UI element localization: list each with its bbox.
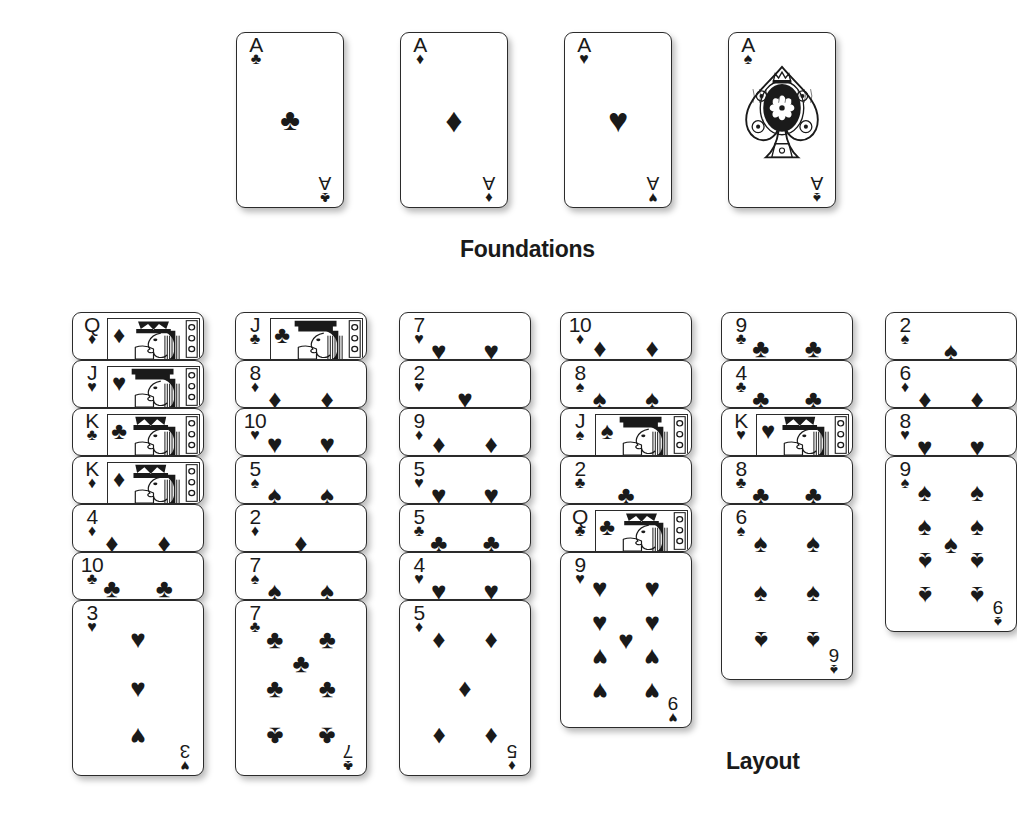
pip: ♣ — [156, 575, 173, 600]
tableau-card-c6-2[interactable]: 6♦♦♦ — [885, 360, 1017, 408]
pip-field: ♣ — [569, 467, 683, 504]
tableau-card-c3-2[interactable]: 2♥♥ — [399, 360, 531, 408]
tableau-card-c3-7[interactable]: 5♦♦♦♦♦♦♦5 — [399, 600, 531, 776]
card-index-bottom: ♣A — [312, 175, 338, 204]
suit-club-icon: ♣ — [242, 333, 268, 346]
card-rank-bottom: A — [476, 175, 502, 192]
tableau-card-c5-4[interactable]: 8♣♣♣♣ — [721, 456, 853, 504]
pip: ♠ — [806, 530, 820, 556]
foundation-card-spade[interactable]: A♠♠A — [728, 32, 836, 208]
pip: ♥ — [645, 645, 660, 671]
tableau-card-c2-7[interactable]: 7♣♣♣♣♣♣♣♣♣7 — [235, 600, 367, 776]
card-index: A♥ — [571, 35, 597, 66]
suit-spade-icon: ♠ — [567, 429, 593, 442]
pip: ♠ — [320, 482, 334, 504]
tableau-card-c1-4[interactable]: K♦♦ — [72, 456, 204, 504]
pip: ♥ — [431, 482, 446, 504]
pip: ♥ — [592, 575, 607, 601]
pip: ♠ — [970, 549, 984, 575]
suit-heart-icon: ♥ — [728, 429, 754, 442]
pip: ♥ — [618, 627, 633, 653]
center-pip-heart: ♥ — [565, 103, 671, 137]
pip: ♠ — [268, 578, 282, 600]
tableau-card-c1-6[interactable]: 10♣♣♣♣♣♣ — [72, 552, 204, 600]
court-suit-pip-club: ♣ — [599, 515, 615, 539]
tableau-card-c5-5[interactable]: 6♠♠♠♠♠♠♠♠6 — [721, 504, 853, 680]
pip: ♦ — [432, 724, 445, 750]
pip-field: ♥♥ — [408, 467, 522, 504]
pip: ♠ — [944, 338, 958, 360]
tableau-card-c1-1[interactable]: Q♦♦ — [72, 312, 204, 360]
card-index: A♦ — [407, 35, 433, 66]
tableau-card-c6-1[interactable]: 2♠♠ — [885, 312, 1017, 360]
card-rank-bottom: 6 — [821, 647, 847, 664]
foundation-card-heart[interactable]: A♥♥♥A — [564, 32, 672, 208]
pip: ♦ — [971, 386, 984, 408]
pip: ♦ — [268, 386, 281, 408]
pip-field: ♦♦♦♦♦ — [408, 611, 522, 765]
card-index: J♠ — [567, 411, 593, 442]
pip: ♦ — [158, 530, 171, 552]
pip: ♦ — [918, 386, 931, 408]
tableau-card-c4-6[interactable]: 9♥♥♥♥♥♥♥♥♥♥♥9 — [560, 552, 692, 728]
pip-field: ♠♠ — [244, 467, 358, 504]
pip: ♣ — [292, 650, 309, 676]
tableau-card-c6-4[interactable]: 9♠♠♠♠♠♠♠♠♠♠♠9 — [885, 456, 1017, 632]
pip: ♠ — [754, 530, 768, 556]
tableau-card-c2-2[interactable]: 8♦♦♦♦ — [235, 360, 367, 408]
card-index: J♥ — [79, 363, 105, 394]
pip: ♦ — [593, 335, 606, 360]
tableau-card-c6-3[interactable]: 8♥♥♥♥ — [885, 408, 1017, 456]
tableau-card-c2-6[interactable]: 7♠♠♠♠ — [235, 552, 367, 600]
pip: ♦ — [432, 626, 445, 652]
tableau-card-c5-1[interactable]: 9♣♣♣♣♣ — [721, 312, 853, 360]
card-index: Q♣ — [567, 507, 593, 538]
tableau-card-c3-6[interactable]: 4♥♥♥ — [399, 552, 531, 600]
tableau-card-c4-4[interactable]: 2♣♣ — [560, 456, 692, 504]
tableau-card-c5-3[interactable]: K♥♥ — [721, 408, 853, 456]
tableau-card-c3-1[interactable]: 7♥♥♥♥ — [399, 312, 531, 360]
pip-field: ♣♣♣ — [730, 467, 844, 504]
tableau-card-c4-1[interactable]: 10♦♦♦♦♦♦ — [560, 312, 692, 360]
pip-field: ♠♠♠ — [569, 371, 683, 408]
pip-field: ♣♣ — [408, 515, 522, 552]
tableau-card-c1-5[interactable]: 4♦♦♦ — [72, 504, 204, 552]
tableau-card-c3-4[interactable]: 5♥♥♥ — [399, 456, 531, 504]
tableau-card-c1-7[interactable]: 3♥♥♥♥♥3 — [72, 600, 204, 776]
card-index-bottom: ♦5 — [499, 743, 525, 772]
pip: ♥ — [592, 609, 607, 635]
pip: ♣ — [752, 482, 769, 504]
card-index-bottom: ♥A — [640, 175, 666, 204]
tableau-card-c1-3[interactable]: K♣♣ — [72, 408, 204, 456]
pip-field: ♥♥♥ — [408, 323, 522, 360]
tableau-card-c2-1[interactable]: J♣♣ — [235, 312, 367, 360]
pip: ♣ — [805, 335, 822, 360]
foundation-card-club[interactable]: A♣♣♣A — [236, 32, 344, 208]
foundation-card-diamond[interactable]: A♦♦♦A — [400, 32, 508, 208]
card-index: A♣ — [243, 35, 269, 66]
tableau-card-c4-5[interactable]: Q♣♣ — [560, 504, 692, 552]
tableau-card-c2-5[interactable]: 2♦♦ — [235, 504, 367, 552]
tableau-card-c2-3[interactable]: 10♥♥♥♥♥♥ — [235, 408, 367, 456]
tableau-card-c4-3[interactable]: J♠♠ — [560, 408, 692, 456]
tableau-card-c3-3[interactable]: 9♦♦♦♦♦ — [399, 408, 531, 456]
tableau-card-c5-2[interactable]: 4♣♣♣ — [721, 360, 853, 408]
pip: ♥ — [592, 679, 607, 705]
court-suit-pip-heart: ♥ — [761, 419, 775, 443]
pip: ♣ — [430, 530, 447, 552]
tableau-card-c4-2[interactable]: 8♠♠♠♠ — [560, 360, 692, 408]
tableau-card-c3-5[interactable]: 5♣♣♣ — [399, 504, 531, 552]
layout-label: Layout — [726, 748, 800, 775]
card-rank-bottom: A — [804, 175, 830, 192]
pip: ♥ — [130, 626, 145, 652]
pip: ♥ — [917, 434, 932, 456]
tableau-card-c2-4[interactable]: 5♠♠♠ — [235, 456, 367, 504]
card-index: K♥ — [728, 411, 754, 442]
pip: ♣ — [266, 724, 283, 750]
pip: ♠ — [944, 531, 958, 557]
tableau-card-c1-2[interactable]: J♥♥ — [72, 360, 204, 408]
pip: ♠ — [918, 513, 932, 539]
card-rank-bottom: 7 — [335, 743, 361, 760]
pip: ♥ — [267, 431, 282, 456]
pip: ♥ — [970, 434, 985, 456]
